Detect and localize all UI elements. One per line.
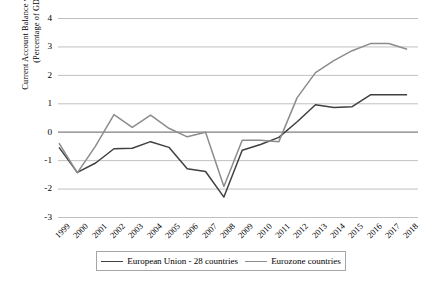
y-tick-label: 4 [22,13,52,23]
plot-area [58,18,418,217]
y-tick-label: 2 [22,70,52,80]
legend-swatch-eurozone [245,261,267,262]
y-tick-label: -3 [22,212,52,222]
legend-label-eurozone: Eurozone countries [271,256,341,266]
legend-label-eu28: European Union - 28 countries [127,256,238,266]
legend-swatch-eu28 [101,261,123,262]
legend-item-eu28: European Union - 28 countries [101,256,238,266]
series-lines [58,18,418,217]
legend-item-eurozone: Eurozone countries [245,256,341,266]
y-tick-label: 3 [22,41,52,51]
current-account-balance-line-chart: Current Account Balance with ROW (Percen… [0,0,433,285]
y-tick-label: 0 [22,127,52,137]
y-tick-label: -1 [22,155,52,165]
y-tick-label: -2 [22,183,52,193]
y-tick-label: 1 [22,98,52,108]
chart-legend: European Union - 28 countries Eurozone c… [96,251,346,271]
